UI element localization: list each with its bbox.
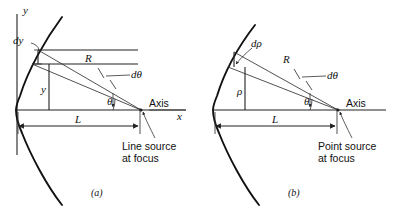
parabolic-reflector-diagram: y dy R dθ θ y L Axis x Line source at fo… [0, 0, 394, 213]
panel-a-source-label-line2: at focus [122, 152, 159, 164]
panel-a-dtheta-tick-outer [98, 68, 104, 78]
figure-container: y dy R dθ θ y L Axis x Line source at fo… [0, 0, 394, 213]
panel-b-dtheta-leader [302, 76, 326, 77]
panel-a-axis-label: Axis [149, 97, 169, 109]
panel-b-theta-label: θ [304, 95, 310, 107]
panel-b-source-label-line1: Point source [318, 140, 377, 152]
panel-b-drho-label: dρ [251, 37, 262, 49]
panel-b-parabola-curve [213, 25, 259, 205]
panel-b-dtheta-label: dθ [327, 69, 339, 81]
panel-b-dtheta-tick-outer [294, 69, 300, 79]
panel-a-dtheta-tick-inner [110, 80, 116, 89]
panel-a-focus-point [139, 108, 142, 111]
panel-a-dy-leader [31, 43, 39, 50]
panel-a-L-label: L [74, 113, 81, 125]
panel-a-source-leader [143, 112, 155, 138]
panel-a-caption: (a) [91, 187, 103, 199]
panel-a-dtheta-label: dθ [131, 68, 143, 80]
panel-b-source-label-line2: at focus [318, 152, 355, 164]
panel-b-rho-label: ρ [236, 85, 242, 97]
panel-b-focus-point [336, 108, 339, 111]
panel-b-axis-label: Axis [346, 97, 366, 109]
panel-a: y dy R dθ θ y L Axis x Line source at fo… [13, 4, 186, 205]
panel-a-x-axis-label: x [176, 110, 182, 122]
panel-a-dy-label: dy [13, 34, 24, 46]
panel-a-y-label: y [40, 83, 46, 95]
panel-b-dtheta-tick-inner [306, 81, 312, 90]
panel-b: dρ R dθ θ ρ L Axis Point source at focus… [213, 25, 386, 205]
panel-a-theta-label: θ [107, 95, 113, 107]
panel-a-dtheta-leader [106, 75, 130, 76]
panel-a-y-axis-label: y [22, 4, 28, 16]
panel-a-source-label-line1: Line source [122, 140, 176, 152]
panel-b-source-leader [340, 112, 352, 138]
panel-b-caption: (b) [288, 187, 300, 199]
panel-b-R-label: R [282, 53, 290, 65]
panel-a-R-label: R [84, 52, 92, 64]
panel-a-ray-to-lower-point [32, 64, 141, 110]
panel-b-L-label: L [271, 113, 278, 125]
